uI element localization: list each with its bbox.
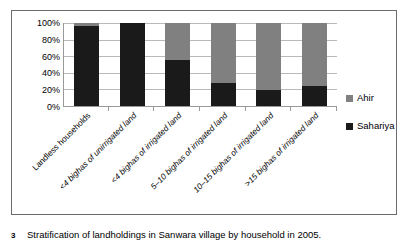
bar-segment-sahariya[interactable] bbox=[165, 60, 190, 106]
plot-area bbox=[63, 23, 337, 107]
legend-swatch-sahariya bbox=[346, 123, 353, 130]
legend-item-sahariya: Sahariya bbox=[346, 121, 396, 131]
bar-segment-sahariya[interactable] bbox=[120, 23, 145, 106]
y-tick-label: 60% bbox=[42, 52, 60, 61]
bar-slot bbox=[246, 23, 292, 106]
x-axis-category-labels: Landless households<4 bighas of unirriga… bbox=[63, 111, 337, 207]
stacked-bar[interactable] bbox=[165, 23, 190, 106]
stacked-bar[interactable] bbox=[302, 23, 327, 106]
legend-swatch-ahir bbox=[346, 95, 353, 102]
bar-segment-ahir[interactable] bbox=[211, 23, 236, 83]
legend-label-ahir: Ahir bbox=[357, 93, 374, 103]
bar-segment-sahariya[interactable] bbox=[74, 26, 99, 107]
y-tick-label: 100% bbox=[37, 19, 60, 28]
bar-slot bbox=[155, 23, 201, 106]
bar-segment-sahariya[interactable] bbox=[211, 83, 236, 106]
y-axis-tick-labels: 100% 80% 60% 40% 20% 0% bbox=[22, 23, 60, 107]
bar-slot bbox=[201, 23, 247, 106]
bar-slot bbox=[110, 23, 156, 106]
caption-text: Stratification of landholdings in Sanwar… bbox=[27, 229, 321, 240]
bar-segment-sahariya[interactable] bbox=[256, 90, 281, 106]
y-tick-label: 20% bbox=[42, 86, 60, 95]
figure-frame: 100% 80% 60% 40% 20% 0% Landle bbox=[11, 10, 397, 215]
bar-segment-ahir[interactable] bbox=[256, 23, 281, 90]
bar-segment-ahir[interactable] bbox=[302, 23, 327, 86]
caption-number: 3 bbox=[11, 231, 27, 240]
figure-caption: 3 Stratification of landholdings in Sanw… bbox=[11, 229, 401, 240]
y-tick-label: 40% bbox=[42, 69, 60, 78]
legend-label-sahariya: Sahariya bbox=[357, 121, 395, 131]
bar-segment-sahariya[interactable] bbox=[302, 86, 327, 106]
y-tick-label: 0% bbox=[47, 103, 60, 112]
bars-layer bbox=[64, 23, 337, 106]
y-tick-label: 80% bbox=[42, 35, 60, 44]
legend-item-ahir: Ahir bbox=[346, 93, 396, 103]
stacked-bar[interactable] bbox=[120, 23, 145, 106]
bar-segment-ahir[interactable] bbox=[165, 23, 190, 60]
bar-slot bbox=[292, 23, 338, 106]
chart-legend: Ahir Sahariya bbox=[346, 93, 396, 149]
bar-slot bbox=[64, 23, 110, 106]
stacked-bar[interactable] bbox=[211, 23, 236, 106]
chart-plot-wrapper: 100% 80% 60% 40% 20% 0% Landle bbox=[12, 11, 396, 214]
stacked-bar[interactable] bbox=[74, 23, 99, 106]
stacked-bar[interactable] bbox=[256, 23, 281, 106]
